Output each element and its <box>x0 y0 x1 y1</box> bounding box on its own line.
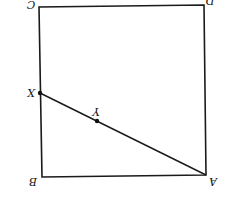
square-ABCD <box>39 5 206 177</box>
label-A: A <box>209 175 218 188</box>
label-X: X <box>26 86 36 99</box>
label-Y: Y <box>91 105 100 118</box>
point-Y <box>95 119 99 123</box>
square-diagram: A B C D X Y <box>0 0 226 200</box>
label-B: B <box>29 175 38 188</box>
label-C: C <box>26 0 35 11</box>
point-X <box>38 91 42 95</box>
label-D: D <box>205 0 215 7</box>
segment-AX <box>40 93 206 175</box>
